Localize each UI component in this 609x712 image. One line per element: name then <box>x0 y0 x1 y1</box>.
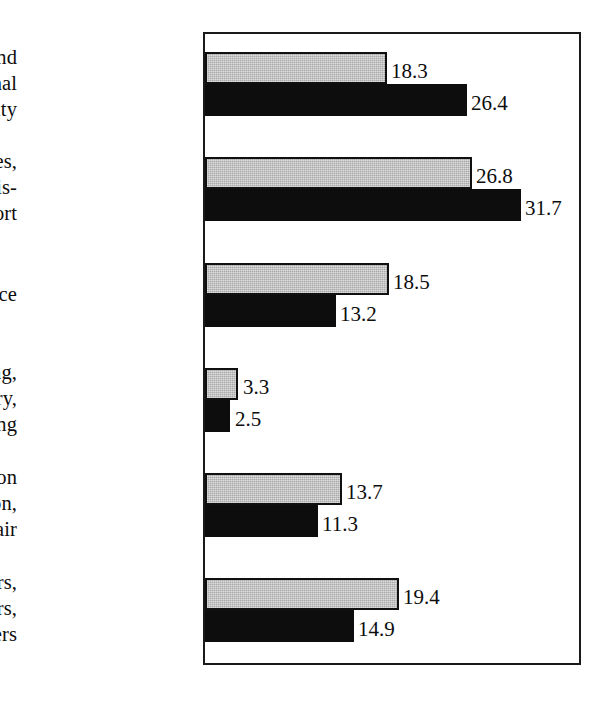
bar-dark-operators <box>205 610 354 642</box>
value-label-light-service: 18.5 <box>393 272 430 293</box>
category-label-operators: Operators, fabricators, and laborers <box>0 569 17 647</box>
category-label-precision: Precision production, craft, and repair <box>0 464 17 542</box>
bar-dark-managerial <box>205 84 467 116</box>
category-label-farming: Farming, forestry, and fishing <box>0 359 17 437</box>
value-label-light-precision: 13.7 <box>346 482 383 503</box>
horizontal-grouped-bar-chart: Managerial and professional specialty Te… <box>0 0 609 712</box>
bar-dark-farming <box>205 400 230 432</box>
bar-dark-service <box>205 295 336 327</box>
bar-light-service <box>205 263 389 295</box>
value-label-dark-service: 13.2 <box>340 304 377 325</box>
bar-light-managerial <box>205 52 387 84</box>
bar-light-farming <box>205 368 238 400</box>
plot-frame <box>203 32 581 665</box>
value-label-light-technical: 26.8 <box>476 166 513 187</box>
value-label-dark-farming: 2.5 <box>235 409 261 430</box>
category-label-technical: Technical, sales, and adminis- trative s… <box>0 148 17 226</box>
value-label-dark-technical: 31.7 <box>525 198 562 219</box>
bar-light-operators <box>205 578 399 610</box>
bar-dark-precision <box>205 505 318 537</box>
bar-dark-technical <box>205 189 521 221</box>
value-label-light-managerial: 18.3 <box>391 61 428 82</box>
category-label-managerial: Managerial and professional specialty <box>0 44 17 122</box>
value-label-dark-managerial: 26.4 <box>471 93 508 114</box>
category-label-service: Service <box>0 281 17 307</box>
value-label-light-farming: 3.3 <box>243 377 269 398</box>
bar-light-precision <box>205 473 342 505</box>
bar-light-technical <box>205 157 472 189</box>
value-label-dark-operators: 14.9 <box>358 619 395 640</box>
value-label-light-operators: 19.4 <box>403 587 440 608</box>
value-label-dark-precision: 11.3 <box>322 514 358 535</box>
